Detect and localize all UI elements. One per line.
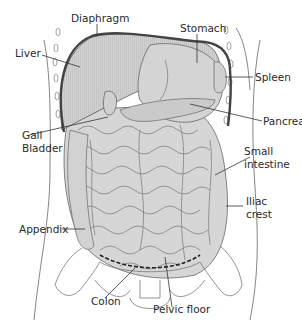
label-iliac-crest: Iliac crest bbox=[246, 195, 272, 221]
label-small-intestine: Small intestine bbox=[244, 145, 290, 171]
label-pancreas: Pancreas bbox=[263, 115, 302, 127]
label-small-intestine-line1: Small bbox=[244, 145, 290, 158]
intestines bbox=[64, 105, 227, 278]
label-diaphragm: Diaphragm bbox=[71, 12, 129, 24]
label-iliac-crest-line1: Iliac bbox=[246, 195, 272, 208]
label-gall-bladder: Gall Bladder bbox=[22, 129, 63, 155]
label-small-intestine-line2: intestine bbox=[244, 158, 290, 171]
label-gall-bladder-line2: Bladder bbox=[22, 142, 63, 155]
gall-bladder bbox=[103, 91, 116, 115]
label-spleen: Spleen bbox=[255, 71, 291, 83]
label-appendix: Appendix bbox=[19, 223, 68, 235]
label-gall-bladder-line1: Gall bbox=[22, 129, 63, 142]
label-pelvic-floor: Pelvic floor bbox=[153, 303, 210, 315]
label-colon: Colon bbox=[91, 295, 121, 307]
label-iliac-crest-line2: crest bbox=[246, 208, 272, 221]
spleen bbox=[214, 62, 226, 93]
label-liver: Liver bbox=[15, 47, 41, 59]
label-stomach: Stomach bbox=[180, 22, 226, 34]
